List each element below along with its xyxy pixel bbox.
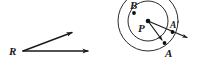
figure-canvas: R P B A A' xyxy=(0,0,199,68)
vertex-label-r: R xyxy=(8,45,16,57)
point-label-a: A xyxy=(164,47,172,59)
center-label-p: P xyxy=(138,22,145,34)
point-b-dot xyxy=(132,11,136,15)
point-label-a-prime: A' xyxy=(169,20,179,30)
point-a-dot xyxy=(163,41,167,45)
geometry-figure: R P B A A' xyxy=(0,0,199,68)
point-label-b: B xyxy=(129,0,137,11)
point-a-prime-dot xyxy=(171,30,175,34)
center-point-p xyxy=(146,19,151,24)
